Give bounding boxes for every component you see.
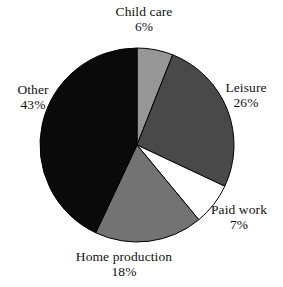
pie-label-other-value: 43% <box>2 97 64 112</box>
pie-label-paid-work: Paid work 7% <box>196 202 282 233</box>
pie-label-child-care: Child care 6% <box>96 4 192 35</box>
pie-label-leisure-value: 26% <box>210 95 282 110</box>
pie-label-other: Other 43% <box>2 82 64 113</box>
pie-label-paid-work-name: Paid work <box>196 202 282 217</box>
pie-label-child-care-value: 6% <box>96 19 192 34</box>
pie-label-home-production-name: Home production <box>57 249 191 264</box>
pie-label-leisure: Leisure 26% <box>210 80 282 111</box>
pie-label-leisure-name: Leisure <box>210 80 282 95</box>
pie-label-paid-work-value: 7% <box>196 217 282 232</box>
pie-label-home-production-value: 18% <box>57 264 191 279</box>
pie-label-other-name: Other <box>2 82 64 97</box>
pie-chart-figure: Child care 6% Leisure 26% Paid work 7% H… <box>0 0 283 287</box>
pie-label-child-care-name: Child care <box>96 4 192 19</box>
pie-label-home-production: Home production 18% <box>57 249 191 280</box>
pie-chart-canvas <box>0 0 283 287</box>
